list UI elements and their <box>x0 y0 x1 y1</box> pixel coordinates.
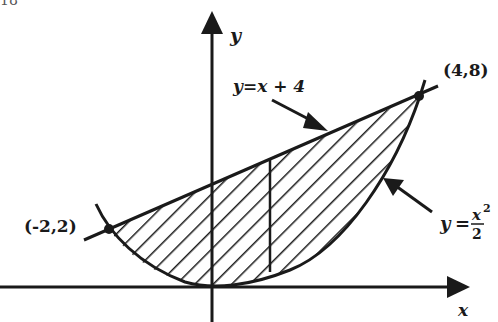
intersection-point-right <box>414 91 424 101</box>
line-equation-label: y=x + 4 <box>232 76 305 96</box>
intersection-point-left <box>104 224 114 234</box>
y-axis-label: y <box>229 24 243 46</box>
x-axis-label: x <box>457 300 469 320</box>
parabola-eq-denominator: 2 <box>472 226 482 242</box>
arrowhead-icon <box>383 178 404 196</box>
parabola-equation-label: y = x 2 2 <box>439 202 491 242</box>
line-eq-rhs: x + 4 <box>256 76 305 96</box>
region-between-curves-diagram: y x (4,8) (-2,2) y=x + 4 y = x 2 2 <box>0 0 498 322</box>
parabola-eq-lhs: y <box>439 213 452 234</box>
line-eq-equals: = <box>243 76 257 96</box>
point-label-left: (-2,2) <box>24 216 77 236</box>
svg-text:y=x + 4: y=x + 4 <box>232 76 305 96</box>
parabola-eq-exponent: 2 <box>483 202 491 215</box>
parabola-label-arrow <box>383 178 432 212</box>
parabola-eq-numerator: x <box>471 206 482 224</box>
x-axis-arrow-icon <box>447 276 470 298</box>
y-axis-arrow-icon <box>201 11 223 34</box>
point-label-right: (4,8) <box>443 60 489 80</box>
line-label-arrow <box>272 100 328 131</box>
parabola-eq-equals: = <box>455 213 470 234</box>
arrowhead-icon <box>303 112 328 131</box>
